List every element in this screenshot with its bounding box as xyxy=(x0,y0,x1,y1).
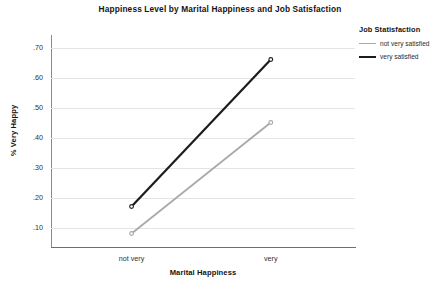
series-line-not-very-satisfied xyxy=(132,123,271,234)
data-point-marker xyxy=(269,58,273,62)
legend-item-very-satisfied[interactable]: very satisfied xyxy=(359,52,439,61)
legend-swatch-dark xyxy=(359,56,376,58)
legend-swatch-light xyxy=(359,43,376,44)
data-point-marker xyxy=(269,121,273,125)
data-point-marker xyxy=(130,232,134,236)
legend-title: Job Statisfaction xyxy=(359,25,439,34)
legend-item-not-very-satisfied[interactable]: not very satisfied xyxy=(359,39,439,48)
legend-label-very-satisfied: very satisfied xyxy=(380,53,418,60)
legend-label-not-very-satisfied: not very satisfied xyxy=(380,40,429,47)
series-line-very-satisfied xyxy=(132,60,271,207)
data-point-marker xyxy=(130,205,134,209)
legend: Job Statisfaction not very satisfied ver… xyxy=(359,25,439,65)
